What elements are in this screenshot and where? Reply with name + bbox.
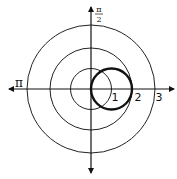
svg-text:2: 2 — [96, 15, 101, 24]
polar-graph: π 2 π 1 2 3 — [0, 0, 177, 179]
radius-label-3: 3 — [156, 91, 163, 104]
radius-label-1: 1 — [112, 91, 119, 104]
label-pi: π — [15, 76, 23, 90]
radius-label-2: 2 — [135, 91, 142, 104]
label-pi-over-2: π 2 — [95, 5, 103, 24]
svg-text:π: π — [96, 5, 101, 14]
